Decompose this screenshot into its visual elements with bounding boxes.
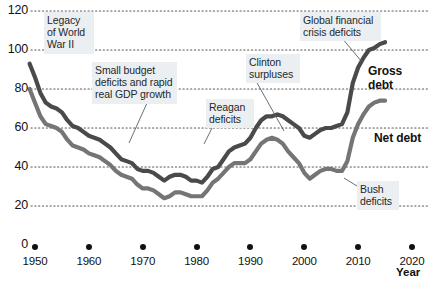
y-axis-tick-0: 0	[0, 237, 28, 251]
x-axis-dot-1960	[86, 244, 92, 250]
annotation-leader-bush-deficits	[344, 178, 357, 186]
annotation-leader-reagan-deficits	[204, 126, 213, 144]
y-axis-tick-80: 80	[0, 81, 28, 95]
x-axis-tick-1960: 1960	[67, 255, 111, 267]
x-axis-tick-1980: 1980	[175, 255, 219, 267]
gross-debt-label: Gross debt	[368, 64, 429, 92]
annotation-clinton-surpluses: Clinton surpluses	[246, 54, 300, 83]
annotation-small-budget-deficits: Small budget deficits and rapid real GDP…	[92, 62, 177, 104]
annotation-reagan-deficits: Reagan deficits	[206, 99, 254, 128]
y-axis-tick-60: 60	[0, 120, 28, 134]
x-axis-dot-1980	[194, 244, 200, 250]
y-axis-tick-40: 40	[0, 159, 28, 173]
x-axis-dot-2020	[409, 244, 415, 250]
x-axis-title: Year	[396, 266, 420, 278]
annotation-legacy-wwii: Legacy of World War II	[44, 12, 94, 54]
x-axis-tick-2010: 2010	[336, 255, 380, 267]
annotation-bush-deficits: Bush deficits	[357, 181, 399, 210]
x-axis-dot-1950	[32, 244, 38, 250]
x-axis-tick-2000: 2000	[282, 255, 326, 267]
annotation-global-financial-crisis: Global financial crisis deficits	[300, 12, 381, 41]
x-axis-tick-1950: 1950	[13, 255, 57, 267]
x-axis-tick-1990: 1990	[228, 255, 272, 267]
x-axis-dot-1970	[140, 244, 146, 250]
debt-to-gdp-line-chart: 120100806040200 195019601970198019902000…	[0, 0, 429, 285]
net-debt-label: Net debt	[374, 131, 421, 145]
y-axis-tick-100: 100	[0, 42, 28, 56]
y-axis-tick-120: 120	[0, 3, 28, 17]
x-axis-tick-1970: 1970	[121, 255, 165, 267]
y-axis-tick-20: 20	[0, 198, 28, 212]
annotation-leader-small-budget-deficits	[129, 103, 147, 143]
